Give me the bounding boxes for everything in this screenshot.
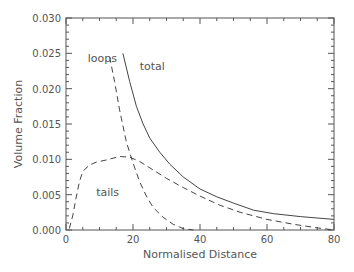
y-tick-label: 0.015 [32,119,61,130]
series-labels: totalloopstails [88,52,165,199]
line-chart: 0204060800.0000.0050.0100.0150.0200.0250… [0,0,354,272]
y-tick-label: 0.005 [32,190,61,201]
y-tick-label: 0.030 [32,13,61,24]
label-tails: tails [96,186,119,199]
x-tick-label: 80 [328,234,341,245]
x-tick-label: 40 [194,234,207,245]
y-tick-label: 0.000 [32,225,61,236]
x-tick-label: 60 [261,234,274,245]
y-tick-label: 0.025 [32,48,61,59]
y-axis-label: Volume Fraction [12,80,25,168]
plot-curves [69,53,334,230]
y-tick-label: 0.010 [32,154,61,165]
label-total: total [140,60,165,73]
x-tick-label: 0 [63,234,69,245]
label-loops: loops [88,52,117,65]
x-tick-label: 20 [127,234,140,245]
curve-total [123,53,334,219]
x-axis-label: Normalised Distance [143,248,257,261]
y-tick-label: 0.020 [32,84,61,95]
plot-axes: 0204060800.0000.0050.0100.0150.0200.0250… [32,13,340,245]
curve-loops [110,57,194,230]
